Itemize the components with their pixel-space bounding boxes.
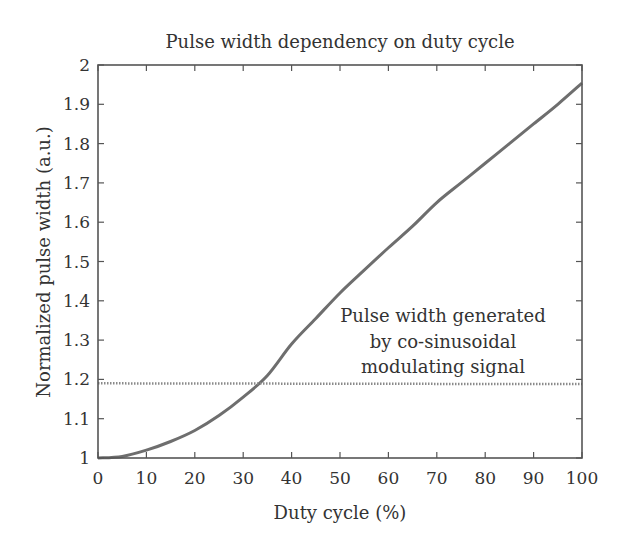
y-tick-label: 1.9 xyxy=(63,94,90,114)
x-tick-label: 30 xyxy=(232,468,254,488)
y-tick-label: 1 xyxy=(79,448,90,468)
chart-title: Pulse width dependency on duty cycle xyxy=(165,31,514,52)
plot-frame xyxy=(98,65,582,458)
x-tick-label: 10 xyxy=(136,468,158,488)
y-tick-label: 1.8 xyxy=(63,134,90,154)
annotation-line: Pulse width generated xyxy=(340,305,545,326)
y-tick-label: 1.1 xyxy=(63,409,90,429)
y-tick-label: 1.5 xyxy=(63,252,90,272)
y-axis-ticks: 11.11.21.31.41.51.61.71.81.92 xyxy=(63,55,582,468)
x-tick-label: 60 xyxy=(378,468,400,488)
y-axis-label: Normalized pulse width (a.u.) xyxy=(33,126,54,397)
x-tick-label: 20 xyxy=(184,468,206,488)
x-tick-label: 50 xyxy=(329,468,351,488)
x-axis-label: Duty cycle (%) xyxy=(274,502,407,523)
x-tick-label: 100 xyxy=(566,468,598,488)
y-tick-label: 1.7 xyxy=(63,173,90,193)
x-tick-label: 80 xyxy=(474,468,496,488)
annotation-line: modulating signal xyxy=(361,356,525,377)
y-tick-label: 1.3 xyxy=(63,330,90,350)
plot-area xyxy=(98,83,582,458)
x-axis-ticks: 0102030405060708090100 xyxy=(93,65,599,488)
y-tick-label: 1.4 xyxy=(63,291,90,311)
y-tick-label: 1.6 xyxy=(63,212,90,232)
x-tick-label: 70 xyxy=(426,468,448,488)
annotations: Pulse width generatedby co-sinusoidalmod… xyxy=(340,305,545,377)
x-tick-label: 90 xyxy=(523,468,545,488)
y-tick-label: 1.2 xyxy=(63,369,90,389)
pulse-width-chart: 0102030405060708090100 11.11.21.31.41.51… xyxy=(0,0,625,543)
pulse-width-curve xyxy=(98,83,582,458)
cosinusoidal-reference-line xyxy=(98,383,582,384)
x-tick-label: 40 xyxy=(281,468,303,488)
annotation-line: by co-sinusoidal xyxy=(370,331,517,352)
x-tick-label: 0 xyxy=(93,468,104,488)
y-tick-label: 2 xyxy=(79,55,90,75)
